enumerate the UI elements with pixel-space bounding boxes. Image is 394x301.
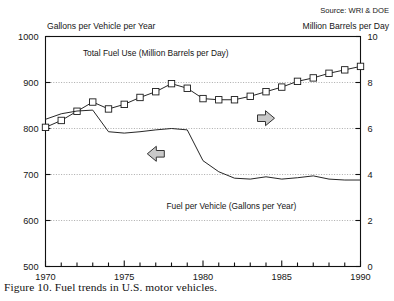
series-marker[interactable] (90, 99, 96, 105)
x-ticklabel[interactable]: 1985 (272, 272, 292, 282)
series-marker[interactable] (58, 117, 64, 123)
y-ticklabel-right[interactable]: 10 (368, 32, 378, 42)
series-marker[interactable] (216, 97, 222, 103)
series-marker[interactable] (121, 101, 127, 107)
y-ticklabel-left[interactable]: 800 (23, 124, 38, 134)
series-marker[interactable] (294, 78, 300, 84)
x-ticklabel[interactable]: 1990 (350, 272, 370, 282)
figure-caption: Figure 10. Fuel trends in U.S. motor veh… (4, 281, 217, 293)
right-axis-title[interactable]: Million Barrels per Day (303, 21, 390, 31)
arrow-right-icon[interactable] (258, 111, 275, 126)
left-axis-title[interactable]: Gallons per Vehicle per Year (47, 21, 156, 31)
series-marker[interactable] (342, 67, 348, 73)
y-ticklabel-right[interactable]: 0 (368, 262, 373, 272)
y-ticklabel-left[interactable]: 700 (23, 170, 38, 180)
series-label-1[interactable]: Total Fuel Use (Million Barrels per Day) (83, 48, 229, 58)
series-marker[interactable] (279, 84, 285, 90)
arrow-left-icon[interactable] (147, 146, 164, 161)
series-marker[interactable] (263, 89, 269, 95)
series-marker[interactable] (184, 85, 190, 91)
y-ticklabel-left[interactable]: 500 (23, 262, 38, 272)
y-ticklabel-left[interactable]: 1000 (18, 32, 38, 42)
y-ticklabel-right[interactable]: 8 (368, 78, 373, 88)
series-line-2[interactable] (46, 110, 361, 180)
series-marker[interactable] (153, 89, 159, 95)
plot-frame[interactable] (46, 37, 361, 267)
x-ticklabel[interactable]: 1970 (35, 272, 55, 282)
series-marker[interactable] (247, 93, 253, 99)
chart-svg: 5006007008009001000024681019701975198019… (0, 0, 394, 301)
source-label[interactable]: Source: WRI & DOE (320, 6, 389, 15)
y-ticklabel-right[interactable]: 4 (368, 170, 373, 180)
x-ticklabel[interactable]: 1975 (114, 272, 134, 282)
series-marker[interactable] (42, 124, 48, 130)
series-marker[interactable] (200, 95, 206, 101)
figure-container: 5006007008009001000024681019701975198019… (0, 0, 394, 301)
series-label-2[interactable]: Fuel per Vehicle (Gallons per Year) (166, 201, 296, 211)
series-marker[interactable] (105, 106, 111, 112)
y-ticklabel-right[interactable]: 2 (368, 216, 373, 226)
series-marker[interactable] (357, 63, 363, 69)
series-marker[interactable] (137, 94, 143, 100)
series-marker[interactable] (168, 80, 174, 86)
series-marker[interactable] (231, 97, 237, 103)
series-marker[interactable] (326, 70, 332, 76)
series-marker[interactable] (310, 75, 316, 81)
y-ticklabel-left[interactable]: 900 (23, 78, 38, 88)
y-ticklabel-right[interactable]: 6 (368, 124, 373, 134)
x-ticklabel[interactable]: 1980 (193, 272, 213, 282)
y-ticklabel-left[interactable]: 600 (23, 216, 38, 226)
